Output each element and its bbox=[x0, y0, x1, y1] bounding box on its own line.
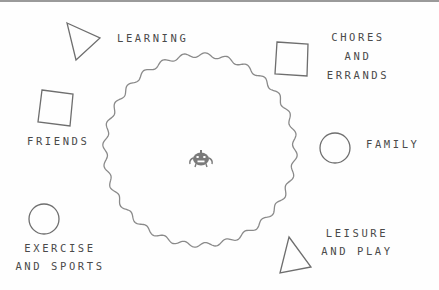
family-circle-icon bbox=[320, 133, 350, 163]
exercise-label-line1: EXERCISE bbox=[15, 242, 105, 254]
chores-label-line3: ERRANDS bbox=[318, 69, 398, 81]
exercise-circle-icon bbox=[29, 204, 59, 234]
leisure-triangle-icon bbox=[280, 237, 311, 273]
learning-triangle-icon bbox=[67, 23, 100, 60]
friends-square-icon bbox=[38, 90, 73, 126]
chores-label-line2: AND bbox=[318, 50, 398, 62]
diagram-canvas: LEARNING CHORES AND ERRANDS FRIENDS FAMI… bbox=[0, 0, 439, 290]
pumpkin-icon bbox=[190, 150, 212, 167]
exercise-label-line2: AND SPORTS bbox=[15, 260, 105, 272]
chores-label-line1: CHORES bbox=[318, 31, 398, 43]
leisure-label-line1: LEISURE bbox=[312, 227, 402, 239]
chores-square-icon bbox=[275, 42, 308, 76]
family-label: FAMILY bbox=[366, 138, 420, 150]
friends-label: FRIENDS bbox=[27, 135, 89, 147]
leisure-label-line2: AND PLAY bbox=[312, 245, 402, 257]
learning-label: LEARNING bbox=[117, 32, 188, 44]
